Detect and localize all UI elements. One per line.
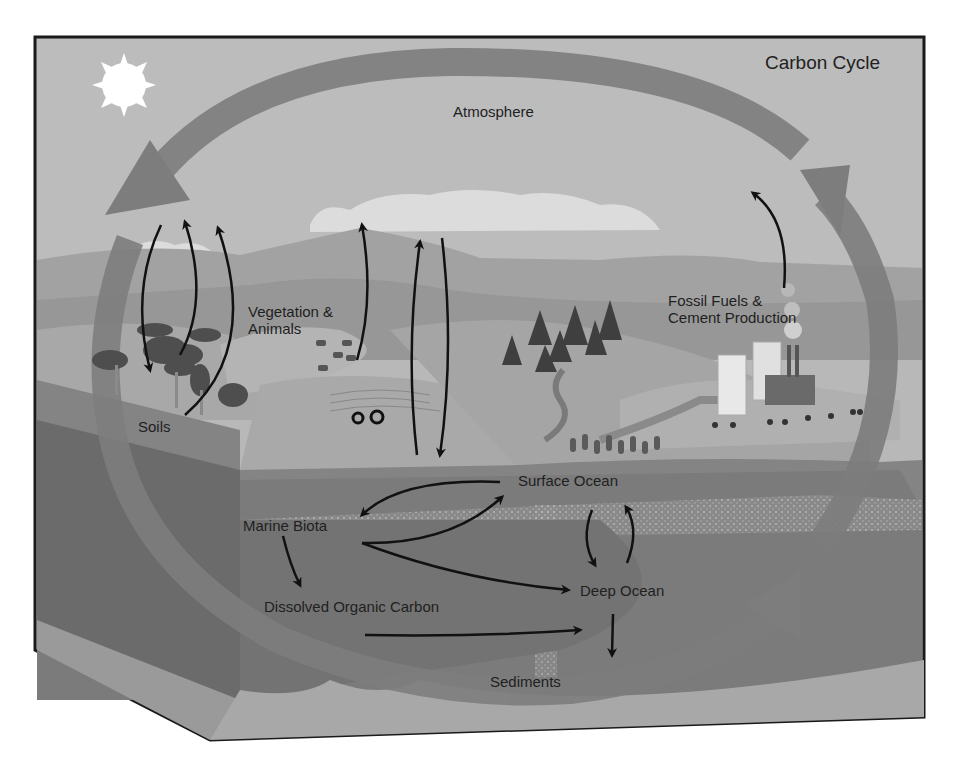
label-atmosphere: Atmosphere	[453, 103, 534, 120]
label-vegetation-animals: Vegetation & Animals	[248, 303, 333, 337]
label-marine-biota: Marine Biota	[243, 517, 327, 534]
label-deep-ocean: Deep Ocean	[580, 582, 664, 599]
label-surface-ocean: Surface Ocean	[518, 472, 618, 489]
label-fossil-fuels: Fossil Fuels & Cement Production	[668, 292, 796, 326]
sun-icon	[92, 53, 156, 117]
diagram-title: Carbon Cycle	[765, 54, 880, 71]
label-soils: Soils	[138, 418, 171, 435]
label-dissolved-organic-carbon: Dissolved Organic Carbon	[264, 598, 439, 615]
label-sediments: Sediments	[490, 673, 561, 690]
